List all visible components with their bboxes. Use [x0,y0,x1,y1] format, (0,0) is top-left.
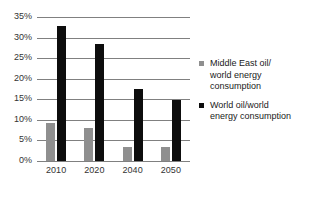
y-axis-tick-label: 30% [14,33,32,42]
bar-group [114,17,152,161]
bar [134,89,143,161]
black-square-icon [199,103,204,108]
x-axis-tick-label: 2050 [152,165,190,175]
legend-label-line: consumption [210,81,324,93]
bar [95,44,104,161]
x-axis-tick-label: 2040 [114,165,152,175]
bar-group [152,17,190,161]
legend: Middle East oil/world energyconsumptionW… [199,58,324,130]
bars-layer [37,17,190,161]
bar [84,128,93,161]
legend-label-line: world energy [210,70,324,82]
y-axis-tick-label: 25% [14,53,32,62]
x-axis-tick-label: 2010 [37,165,75,175]
y-axis-tick-label: 10% [14,115,32,124]
bar-chart: 0%5%10%15%20%25%30%35% 2010202020402050 … [0,0,324,197]
plot-area [37,17,190,161]
x-axis-tick-label: 2020 [75,165,113,175]
y-axis-tick-label: 20% [14,74,32,83]
legend-label-line: Middle East oil/ [210,58,324,70]
bar [123,147,132,161]
y-axis-tick-label: 35% [14,12,32,21]
y-axis-tick-label: 0% [19,156,32,165]
y-axis-tick-label: 15% [14,94,32,103]
x-axis: 2010202020402050 [37,162,190,180]
bar [161,147,170,161]
legend-entry[interactable]: World oil/worldenergy consumption [199,100,324,123]
y-axis-tick-label: 5% [19,135,32,144]
legend-label-line: energy consumption [210,111,324,123]
bar [172,100,181,161]
gray-square-icon [199,61,204,66]
y-axis: 0%5%10%15%20%25%30%35% [0,0,36,197]
bar [57,26,66,161]
legend-entry[interactable]: Middle East oil/world energyconsumption [199,58,324,93]
bar [46,123,55,161]
bar-group [37,17,75,161]
bar-group [75,17,113,161]
legend-label-line: World oil/world [210,100,324,112]
